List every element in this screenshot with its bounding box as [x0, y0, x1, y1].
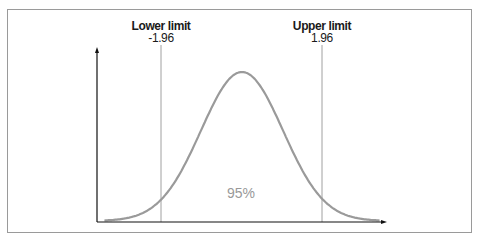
y-axis-arrow-icon: [95, 47, 99, 53]
normal-curve-chart: [0, 0, 480, 239]
lower-limit-label: Lower limit -1.96: [126, 20, 196, 44]
upper-limit-label: Upper limit 1.96: [287, 20, 357, 44]
upper-limit-value: 1.96: [287, 32, 357, 44]
x-axis-arrow-icon: [381, 220, 387, 224]
lower-limit-value: -1.96: [126, 32, 196, 44]
area-percentage-label: 95%: [227, 185, 255, 201]
